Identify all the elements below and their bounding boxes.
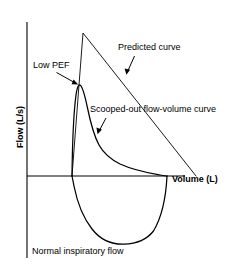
scooped-curve-annotation-label: Scooped-out flow-volume curve <box>90 105 216 114</box>
flow-volume-loop-figure: Flow (L/s) Volume (L) Low PEF Predicted … <box>0 0 245 265</box>
low-pef-arrow-head <box>72 79 79 84</box>
predicted-curve-annotation-label: Predicted curve <box>118 43 181 52</box>
scooped-curve-arrow-shaft <box>99 118 106 131</box>
low-pef-arrow-shaft <box>57 73 76 83</box>
x-axis-label: Volume (L) <box>172 175 218 184</box>
low-pef-annotation-label: Low PEF <box>33 61 70 70</box>
flow-volume-plot <box>0 0 245 265</box>
scooped-out-curve-path <box>72 85 167 176</box>
y-axis-label: Flow (L/s) <box>16 106 25 148</box>
normal-inspiratory-annotation-label: Normal inspiratory flow <box>32 247 124 256</box>
normal-inspiratory-curve-path <box>72 176 167 244</box>
scooped-curve-arrow-head <box>96 128 102 135</box>
predicted-curve-arrow-head <box>125 68 131 74</box>
predicted-curve-arrow-shaft <box>128 56 135 71</box>
